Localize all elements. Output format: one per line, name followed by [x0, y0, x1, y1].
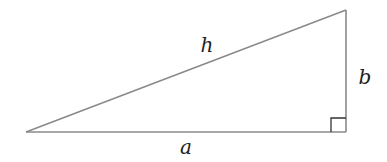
hypotenuse-label: h — [201, 33, 214, 57]
hypotenuse-side — [26, 10, 346, 132]
right-angle-marker — [331, 118, 346, 132]
right-triangle-diagram: h b a — [0, 0, 387, 162]
horizontal-leg-label: a — [180, 135, 192, 159]
vertical-leg-label: b — [359, 65, 372, 89]
